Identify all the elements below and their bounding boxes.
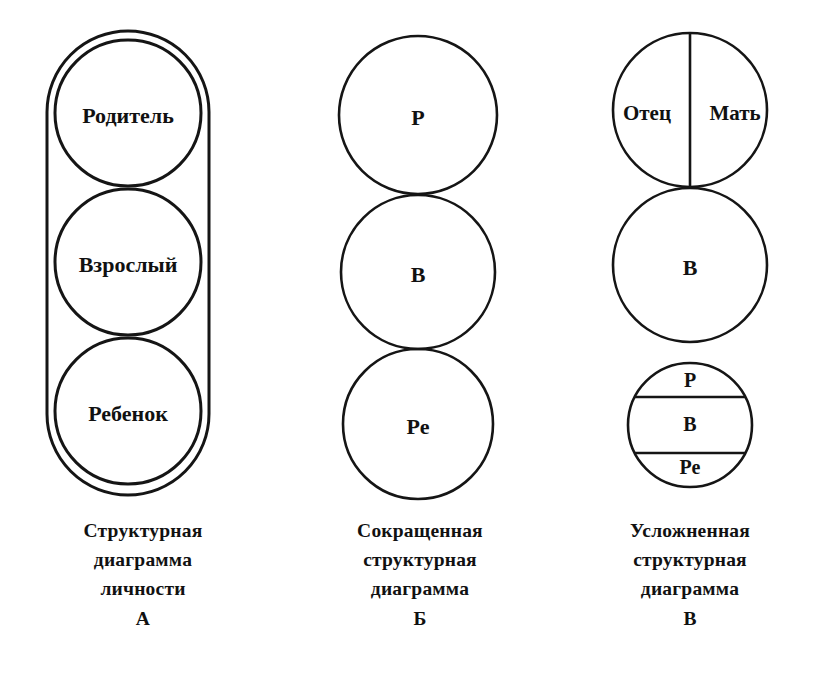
caption-a-line-1: Структурная	[0, 516, 286, 545]
diagram-a-graphics: Родитель Взрослый Ребенок	[0, 0, 286, 512]
circle-adult-label: Взрослый	[79, 252, 178, 277]
caption-b-key: Б	[286, 604, 554, 633]
caption-a-key: А	[0, 604, 286, 633]
caption-c-line-1: Усложненная	[554, 516, 826, 545]
caption-c-line-2: структурная	[554, 545, 826, 574]
diagram-c-svg: Отец Мать В Р В Ре	[554, 0, 826, 512]
band-child-label: Ре	[680, 456, 701, 478]
caption-b-line-2: структурная	[286, 545, 554, 574]
circle-parent-abbrev-label: Р	[411, 105, 424, 130]
structural-diagram-figure: Родитель Взрослый Ребенок Структурная ди…	[0, 0, 826, 673]
band-adult-label: В	[683, 413, 696, 435]
diagram-b-graphics: Р В Ре	[286, 0, 554, 512]
diagram-c-graphics: Отец Мать В Р В Ре	[554, 0, 826, 512]
circle-child-abbrev-label: Ре	[407, 414, 430, 439]
caption-b-line-3: диаграмма	[286, 574, 554, 603]
caption-a-line-3: личности	[0, 574, 286, 603]
circle-mother-label: Мать	[709, 101, 760, 125]
circle-parent-label: Родитель	[82, 103, 174, 128]
caption-c-line-3: диаграмма	[554, 574, 826, 603]
diagram-column-a: Родитель Взрослый Ребенок Структурная ди…	[0, 0, 286, 673]
circle-adult-complex-label: В	[683, 255, 698, 280]
caption-a-line-2: диаграмма	[0, 545, 286, 574]
band-parent-label: Р	[684, 369, 696, 391]
diagram-column-b: Р В Ре Сокращенная структурная диаграмма…	[286, 0, 554, 673]
caption-a: Структурная диаграмма личности А	[0, 516, 286, 633]
diagram-b-svg: Р В Ре	[286, 0, 554, 512]
caption-b-line-1: Сокращенная	[286, 516, 554, 545]
caption-c: Усложненная структурная диаграмма В	[554, 516, 826, 633]
circle-adult-abbrev-label: В	[411, 262, 426, 287]
caption-c-key: В	[554, 604, 826, 633]
circle-child-label: Ребенок	[88, 401, 168, 426]
caption-b: Сокращенная структурная диаграмма Б	[286, 516, 554, 633]
diagram-a-svg: Родитель Взрослый Ребенок	[0, 0, 286, 512]
diagram-column-c: Отец Мать В Р В Ре Усложненная структурн…	[554, 0, 826, 673]
circle-father-label: Отец	[623, 101, 671, 125]
